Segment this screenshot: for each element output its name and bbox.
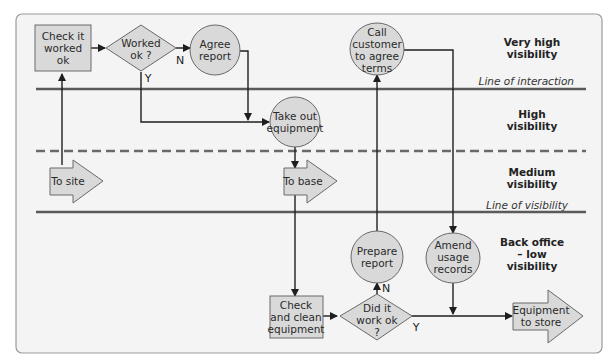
svg-text:Prepare: Prepare [357,245,397,257]
svg-text:Take out: Take out [272,110,317,122]
edge-label-worked-no: N [176,54,184,67]
line-of-visibility-label: Line of visibility [486,199,569,211]
edge-label-worked-yes: Y [144,72,152,85]
node-call-customer: Call customer to agree terms [350,23,404,75]
svg-text:equipment: equipment [267,122,324,134]
svg-text:Worked: Worked [121,37,160,49]
svg-text:Back office: Back office [500,236,564,248]
svg-text:Call: Call [367,26,387,38]
svg-text:work ok: work ok [356,314,398,326]
svg-text:visibility: visibility [507,178,558,190]
node-agree-report: Agree report [190,25,240,75]
svg-text:?: ? [374,326,380,338]
svg-text:report: report [199,50,231,62]
svg-text:Did it: Did it [363,302,391,314]
svg-text:to agree: to agree [355,50,399,62]
zone-medium-visibility: Medium visibility [507,166,558,190]
svg-text:to store: to store [521,316,561,328]
node-check-it-worked: Check it worked ok [35,25,91,71]
service-blueprint-diagram: Line of interaction Line of visibility V… [0,0,615,363]
svg-text:customer: customer [352,38,402,50]
svg-text:– low: – low [517,248,547,260]
svg-text:To base: To base [282,175,322,187]
svg-text:High: High [518,108,545,120]
svg-text:Equipment: Equipment [513,304,570,316]
node-prepare-report: Prepare report [351,231,403,283]
line-of-interaction-label: Line of interaction [479,75,574,87]
svg-text:usage: usage [437,251,469,263]
svg-text:ok ?: ok ? [130,49,151,61]
svg-text:ok: ok [57,54,70,66]
svg-text:worked: worked [44,42,82,54]
svg-text:Check: Check [280,299,313,311]
zone-very-high-visibility: Very high visibility [504,36,560,60]
svg-text:report: report [361,257,393,269]
svg-text:Agree: Agree [200,38,231,50]
svg-text:records: records [433,263,472,275]
svg-text:visibility: visibility [507,120,558,132]
node-check-and-clean: Check and clean equipment [268,296,325,338]
edge-label-did-no: N [382,282,390,295]
svg-text:Check it: Check it [42,30,85,42]
edge-label-did-yes: Y [412,321,420,334]
svg-text:equipment: equipment [268,323,325,335]
svg-text:Amend: Amend [434,239,471,251]
svg-text:visibility: visibility [507,260,558,272]
svg-text:Very high: Very high [504,36,560,48]
svg-text:terms: terms [362,62,392,74]
node-amend-usage-records: Amend usage records [426,233,480,283]
svg-text:Medium: Medium [508,166,555,178]
svg-text:and clean: and clean [270,311,321,323]
svg-text:visibility: visibility [507,48,558,60]
svg-text:To site: To site [50,175,84,187]
